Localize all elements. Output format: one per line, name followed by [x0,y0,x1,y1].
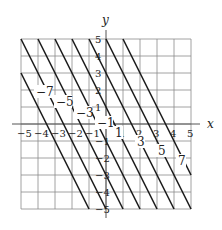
y-tick-label: −4 [95,187,110,198]
y-tick-label: 4 [95,51,101,62]
isocline-label: −1 [97,116,115,130]
line-labels: −7−5−3−11357 [34,85,186,168]
isocline-label: 1 [115,126,123,140]
y-tick-label: 3 [95,68,101,79]
isocline-label: −5 [56,95,74,109]
x-tick-label: −4 [34,128,49,139]
y-tick-label: 2 [95,85,101,96]
x-tick-label: −2 [68,128,83,139]
isocline-label: 7 [178,154,186,168]
y-tick-label: −2 [95,153,110,164]
isocline-diagram: x y −5−4−3−2−11234554321−1−2−3−4−5 −7−5−… [0,0,222,230]
isocline-label: 3 [137,135,145,149]
x-tick-label: 4 [170,128,176,139]
y-axis-label: y [101,13,109,27]
isocline-label: −3 [76,106,94,120]
x-tick-label: 3 [153,128,159,139]
y-tick-label: 5 [95,34,101,45]
x-tick-label: −5 [17,128,32,139]
x-tick-label: 5 [187,128,193,139]
y-tick-label: 1 [95,102,101,113]
y-tick-label: −1 [95,136,110,147]
isocline-label: −7 [36,85,54,99]
x-axis-label: x [207,117,214,131]
y-tick-label: −5 [95,204,110,215]
y-tick-label: −3 [95,170,110,181]
x-tick-label: −3 [51,128,66,139]
isocline-label: 5 [158,144,166,158]
